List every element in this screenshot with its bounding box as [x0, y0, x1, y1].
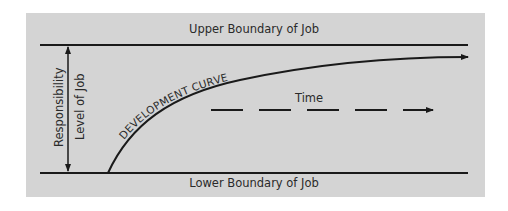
curve-label-text: DEVELOPMENT CURVE	[116, 71, 229, 141]
lower-boundary-label: Lower Boundary of Job	[0, 178, 508, 190]
responsibility-label: Responsibility	[54, 67, 66, 147]
upper-boundary-label: Upper Boundary of Job	[0, 24, 508, 36]
curve-label: DEVELOPMENT CURVE	[116, 71, 229, 141]
level-of-job-label: Level of Job	[75, 74, 87, 140]
development-curve	[108, 57, 468, 173]
time-label: Time	[295, 93, 323, 105]
